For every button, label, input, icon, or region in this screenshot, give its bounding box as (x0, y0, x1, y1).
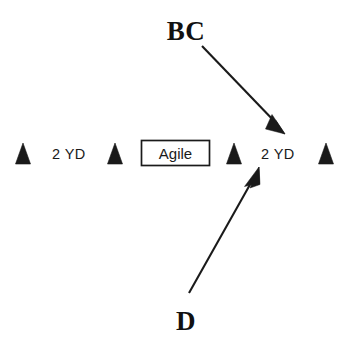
cone-marker-3 (227, 143, 242, 164)
route-bc (202, 46, 285, 134)
agility-drill-diagram: 2 YD 2 YD Agile BC D (0, 0, 350, 348)
distance-label-left: 2 YD (52, 146, 86, 162)
diagram-canvas: 2 YD 2 YD Agile BC D (0, 0, 350, 348)
route-bc-arrowhead-fill (266, 115, 286, 135)
route-bc-shaft (202, 46, 277, 124)
route-d-label: D (176, 306, 196, 336)
agile-zone: Agile (142, 141, 210, 166)
route-bc-label: BC (167, 16, 206, 46)
route-d-shaft (189, 181, 252, 293)
distance-label-right: 2 YD (261, 146, 295, 162)
agile-zone-label: Agile (159, 145, 192, 162)
route-d (189, 167, 260, 293)
cone-marker-2 (108, 143, 123, 164)
cone-marker-4 (319, 143, 334, 164)
cone-marker-1 (16, 143, 31, 164)
